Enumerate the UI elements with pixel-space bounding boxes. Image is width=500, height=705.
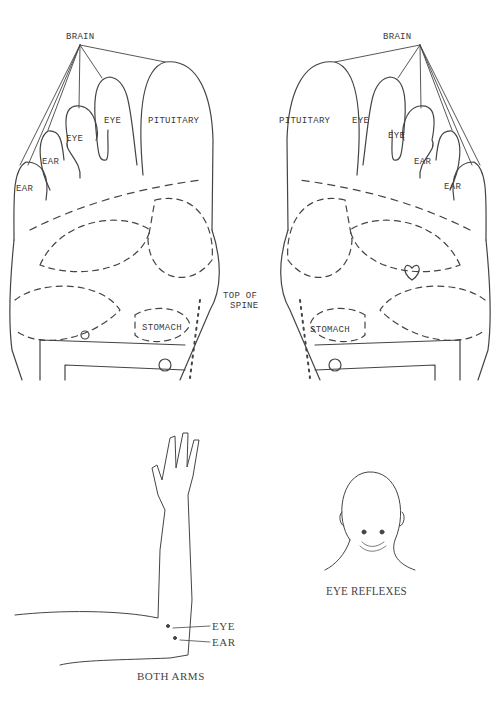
left-foot — [10, 45, 219, 380]
arm-eye-label: EYE — [212, 620, 235, 632]
spine-label-line1: TOP OF — [223, 291, 257, 301]
spine-label-line2: SPINE — [230, 301, 259, 311]
left-brain-label: BRAIN — [66, 32, 95, 42]
right-ear-label-1: EAR — [414, 157, 431, 167]
reflexology-drawing — [0, 0, 500, 705]
left-eye-label-1: EYE — [104, 116, 121, 126]
heart-icon — [405, 265, 419, 280]
right-brain-label: BRAIN — [383, 32, 412, 42]
arm-drawing — [15, 433, 210, 665]
arm-ear-label: EAR — [212, 636, 236, 648]
right-pituitary-label: PITUITARY — [279, 116, 330, 126]
right-eye-label-2: EYE — [388, 131, 405, 141]
left-ear-label-2: EAR — [16, 184, 33, 194]
left-ear-label-1: EAR — [42, 157, 59, 167]
head-caption: EYE REFLEXES — [326, 583, 407, 599]
right-eye-label-1: EYE — [352, 116, 369, 126]
head-drawing — [325, 472, 415, 570]
left-pituitary-label: PITUITARY — [148, 116, 199, 126]
left-eye-label-2: EYE — [66, 134, 83, 144]
right-stomach-label: STOMACH — [310, 325, 350, 335]
arm-caption: BOTH ARMS — [137, 670, 205, 682]
left-stomach-label: STOMACH — [142, 323, 182, 333]
right-ear-label-2: EAR — [444, 182, 461, 192]
